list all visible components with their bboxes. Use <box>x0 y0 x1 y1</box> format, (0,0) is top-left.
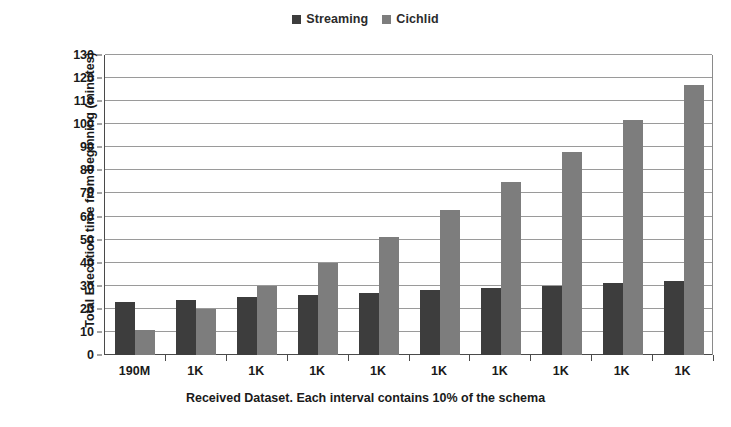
bar-group <box>410 55 471 355</box>
bar-streaming-4[interactable] <box>359 293 379 355</box>
y-tick-mark-20 <box>97 308 102 309</box>
x-tick-mark-2 <box>287 355 288 361</box>
y-tick-label: 120 <box>73 71 94 85</box>
x-tick-mark-1 <box>226 355 227 361</box>
legend-label: Cichlid <box>396 12 438 26</box>
x-tick-label: 1K <box>309 364 325 378</box>
x-tick-mark-6 <box>530 355 531 361</box>
y-tick-mark-60 <box>97 216 102 217</box>
square-swatch-icon <box>292 15 301 24</box>
y-tick-mark-30 <box>97 285 102 286</box>
square-swatch-icon <box>382 15 391 24</box>
x-tick-label: 190M <box>119 364 150 378</box>
x-tick-mark-9 <box>713 355 714 361</box>
x-tick-label: 1K <box>675 364 691 378</box>
plot-area <box>104 55 713 355</box>
y-tick-label: 0 <box>87 348 94 362</box>
y-tick-label: 50 <box>80 233 94 247</box>
bar-cichlid-3[interactable] <box>318 263 338 355</box>
y-tick-mark-90 <box>97 147 102 148</box>
y-tick-mark-50 <box>97 239 102 240</box>
bar-streaming-5[interactable] <box>420 290 440 355</box>
x-axis-title: Received Dataset. Each interval contains… <box>0 391 731 405</box>
y-tick-label: 100 <box>73 117 94 131</box>
x-tick-label: 1K <box>370 364 386 378</box>
y-tick-label: 110 <box>74 94 94 108</box>
y-tick-mark-10 <box>97 331 102 332</box>
x-tick-label: 1K <box>553 364 569 378</box>
y-tick-mark-100 <box>97 124 102 125</box>
y-tick-label: 20 <box>80 302 94 316</box>
bar-cichlid-8[interactable] <box>623 120 643 355</box>
y-tick-mark-120 <box>97 78 102 79</box>
bar-cichlid-7[interactable] <box>562 152 582 355</box>
bar-group <box>470 55 531 355</box>
bar-cichlid-9[interactable] <box>684 85 704 355</box>
x-axis: 190M1K1K1K1K1K1K1K1K1K <box>104 355 713 385</box>
bar-cichlid-5[interactable] <box>440 210 460 355</box>
bar-group <box>653 55 714 355</box>
bar-group <box>227 55 288 355</box>
x-tick-mark-0 <box>165 355 166 361</box>
bar-group <box>349 55 410 355</box>
bar-cichlid-6[interactable] <box>501 182 521 355</box>
bar-group <box>105 55 166 355</box>
bar-series-layer <box>105 55 712 355</box>
y-tick-label: 90 <box>80 140 94 154</box>
bar-streaming-2[interactable] <box>237 297 257 355</box>
bar-streaming-9[interactable] <box>664 281 684 355</box>
bar-cichlid-0[interactable] <box>135 330 155 355</box>
chart-legend: StreamingCichlid <box>0 8 731 30</box>
bar-group <box>592 55 653 355</box>
y-tick-mark-80 <box>97 170 102 171</box>
x-tick-mark-8 <box>652 355 653 361</box>
y-axis: Total Execution time from beginning (min… <box>52 55 102 355</box>
y-tick-mark-40 <box>97 262 102 263</box>
y-tick-label: 70 <box>80 186 94 200</box>
x-tick-label: 1K <box>614 364 630 378</box>
y-tick-mark-70 <box>97 193 102 194</box>
x-tick-label: 1K <box>431 364 447 378</box>
x-tick-mark-4 <box>409 355 410 361</box>
bar-group <box>288 55 349 355</box>
bar-group <box>531 55 592 355</box>
y-tick-label: 60 <box>80 210 94 224</box>
y-tick-mark-110 <box>97 101 102 102</box>
x-tick-mark-7 <box>591 355 592 361</box>
x-tick-mark-5 <box>469 355 470 361</box>
bar-cichlid-2[interactable] <box>257 286 277 355</box>
bar-cichlid-1[interactable] <box>196 309 216 355</box>
y-tick-label: 30 <box>80 279 94 293</box>
x-tick-label: 1K <box>187 364 203 378</box>
y-tick-mark-130 <box>97 55 102 56</box>
y-tick-mark-0 <box>97 355 102 356</box>
x-tick-mark-3 <box>348 355 349 361</box>
bar-streaming-0[interactable] <box>115 302 135 355</box>
bar-cichlid-4[interactable] <box>379 237 399 355</box>
x-tick-label: 1K <box>492 364 508 378</box>
bar-streaming-7[interactable] <box>542 286 562 355</box>
x-tick-label: 1K <box>248 364 264 378</box>
legend-entry-streaming[interactable]: Streaming <box>292 12 368 26</box>
bar-streaming-3[interactable] <box>298 295 318 355</box>
y-tick-label: 80 <box>80 163 94 177</box>
bar-streaming-1[interactable] <box>176 300 196 355</box>
y-tick-label: 10 <box>80 325 94 339</box>
bar-streaming-6[interactable] <box>481 288 501 355</box>
bar-streaming-8[interactable] <box>603 283 623 355</box>
y-tick-label: 130 <box>73 48 94 62</box>
bar-group <box>166 55 227 355</box>
y-tick-label: 40 <box>80 256 94 270</box>
legend-entry-cichlid[interactable]: Cichlid <box>382 12 438 26</box>
legend-label: Streaming <box>306 12 368 26</box>
